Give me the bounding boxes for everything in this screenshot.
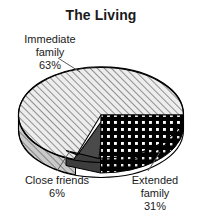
slice-label-extended-family: Extended family 31% xyxy=(112,174,198,214)
slice-label-extended-family-line1: Extended xyxy=(112,174,198,187)
pie-chart-figure: The Living xyxy=(0,0,202,220)
slice-value-extended-family: 31% xyxy=(112,200,198,213)
slice-label-close-friends-line1: Close friends xyxy=(4,174,110,187)
slice-value-close-friends: 6% xyxy=(4,187,110,200)
slice-label-immediate-family: Immediate family 63% xyxy=(8,33,92,73)
slice-label-extended-family-line2: family xyxy=(112,187,198,200)
slice-value-immediate-family: 63% xyxy=(8,59,92,72)
slice-label-immediate-family-line2: family xyxy=(8,46,92,59)
pie-body xyxy=(19,58,184,178)
slice-label-immediate-family-line1: Immediate xyxy=(8,33,92,46)
slice-label-close-friends: Close friends 6% xyxy=(4,174,110,200)
